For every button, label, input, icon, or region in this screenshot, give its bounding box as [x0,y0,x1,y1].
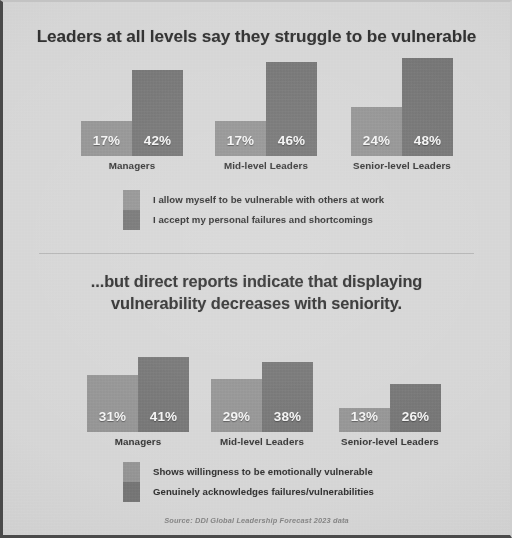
chart-2-title-line-1: ...but direct reports indicate that disp… [55,270,458,292]
chart-1-plot-area: 17%42%Managers17%46%Mid-level Leaders24%… [3,54,510,156]
chart-2-title: ...but direct reports indicate that disp… [3,270,510,314]
chart-1-legend-swatch [123,190,140,230]
bar-value-label: 17% [81,133,132,148]
bar-light: 24% [351,107,402,156]
bar-group: 31%41%Managers [87,340,189,432]
bar-group-bars: 29%38% [211,340,313,432]
bar-light: 17% [215,121,266,156]
bar-light: 31% [87,375,138,432]
bar-group-bars: 17%46% [215,54,317,156]
legend-swatch-light [123,462,140,482]
category-label: Managers [57,160,207,171]
chart-1-title: Leaders at all levels say they struggle … [3,26,510,47]
bar-group-bars: 24%48% [351,54,453,156]
chart-2-legend-item-1: Genuinely acknowledges failures/vulnerab… [153,482,374,502]
chart-2-plot-area: 31%41%Managers29%38%Mid-level Leaders13%… [3,340,510,432]
bar-group-bars: 31%41% [87,340,189,432]
chart-2-title-line-2: vulnerability decreases with seniority. [55,292,458,314]
chart-2-legend-labels: Shows willingness to be emotionally vuln… [153,462,374,502]
bar-value-label: 38% [262,409,313,424]
chart-1-legend-item-1: I accept my personal failures and shortc… [153,210,384,230]
bar-light: 13% [339,408,390,432]
category-label: Senior-level Leaders [327,160,477,171]
bar-group: 13%26%Senior-level Leaders [339,340,441,432]
infographic-page: Leaders at all levels say they struggle … [0,0,512,538]
bar-value-label: 42% [132,133,183,148]
bar-value-label: 31% [87,409,138,424]
chart-2-legend-item-0: Shows willingness to be emotionally vuln… [153,462,374,482]
bar-value-label: 29% [211,409,262,424]
bar-light: 29% [211,379,262,432]
bar-dark: 48% [402,58,453,156]
chart-1-legend: I allow myself to be vulnerable with oth… [123,190,384,230]
bar-dark: 38% [262,362,313,432]
bar-group-bars: 17%42% [81,54,183,156]
bar-group: 29%38%Mid-level Leaders [211,340,313,432]
bar-value-label: 48% [402,133,453,148]
bar-group: 17%46%Mid-level Leaders [215,54,317,156]
bar-dark: 46% [266,62,317,156]
bar-dark: 26% [390,384,441,432]
legend-swatch-light [123,190,140,210]
source-note: Source: DDI Global Leadership Forecast 2… [3,516,510,525]
category-label: Senior-level Leaders [315,436,465,447]
bar-value-label: 17% [215,133,266,148]
chart-2-legend-swatch [123,462,140,502]
section-divider [39,253,474,254]
legend-swatch-dark [123,210,140,230]
bar-dark: 41% [138,357,189,432]
legend-swatch-dark [123,482,140,502]
category-label: Mid-level Leaders [191,160,341,171]
bar-value-label: 24% [351,133,402,148]
bar-value-label: 41% [138,409,189,424]
chart-2-legend: Shows willingness to be emotionally vuln… [123,462,374,502]
bar-light: 17% [81,121,132,156]
bar-value-label: 26% [390,409,441,424]
bar-group: 24%48%Senior-level Leaders [351,54,453,156]
bar-group-bars: 13%26% [339,340,441,432]
bar-value-label: 13% [339,409,390,424]
bar-value-label: 46% [266,133,317,148]
bar-dark: 42% [132,70,183,156]
chart-1-legend-labels: I allow myself to be vulnerable with oth… [153,190,384,230]
chart-1-legend-item-0: I allow myself to be vulnerable with oth… [153,190,384,210]
bar-group: 17%42%Managers [81,54,183,156]
